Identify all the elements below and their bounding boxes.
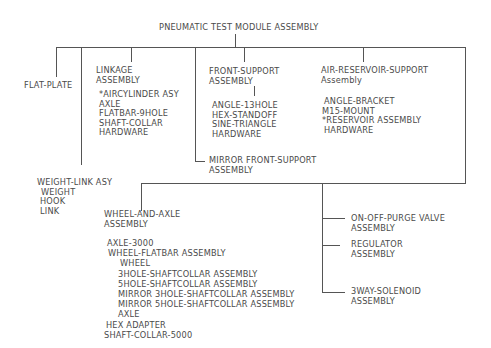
linkage-connector [131, 47, 132, 62]
part-item: 3HOLE-SHAFTCOLLAR ASSEMBLY [104, 269, 294, 279]
regulator-branch [322, 245, 340, 246]
part-item: MIRROR 5HOLE-SHAFTCOLLAR ASSEMBLY [104, 299, 294, 309]
node-regulator: REGULATOR ASSEMBLY [351, 240, 403, 259]
part-item: HARDWARE [99, 128, 179, 138]
front-support-parts-list: ANGLE-13HOLE HEX-STANDOFF SINE-TRIANGLE … [212, 101, 278, 139]
part-item: WHEEL-FLATBAR ASSEMBLY [104, 248, 294, 258]
node-label: Assembly [321, 76, 428, 86]
node-air-reservoir-support: AIR-RESERVOIR-SUPPORT Assembly [321, 66, 428, 85]
part-item: HARDWARE [322, 126, 421, 136]
mirror-front-support-connector [195, 47, 196, 161]
on-off-purge-branch [322, 218, 345, 219]
part-item: SHAFT-COLLAR-5000 [104, 330, 294, 340]
node-on-off-purge-valve: ON-OFF-PURGE VALVE ASSEMBLY [351, 214, 445, 233]
part-item: AXLE [104, 309, 294, 319]
part-item: HARDWARE [212, 130, 278, 140]
part-item: AXLE-3000 [104, 238, 294, 248]
air-reservoir-parts-list: ANGLE-BRACKET M15-MOUNT *RESERVOIR ASSEM… [322, 97, 421, 135]
mirror-front-support-branch [195, 161, 205, 162]
node-label: ASSEMBLY [96, 76, 140, 86]
wheel-axle-connector [141, 183, 142, 211]
wheel-and-axle-parts-list: AXLE-3000 WHEEL-FLATBAR ASSEMBLY WHEEL 3… [104, 238, 294, 340]
title-stem-line [235, 34, 236, 47]
node-label: ASSEMBLY [351, 250, 403, 260]
node-label: ASSEMBLY [351, 297, 421, 307]
part-item: LINK [37, 207, 112, 217]
solenoid-branch [322, 292, 345, 293]
node-3way-solenoid: 3WAY-SOLENOID ASSEMBLY [351, 287, 421, 306]
node-mirror-front-support: MIRROR FRONT-SUPPORT ASSEMBLY [209, 156, 316, 175]
front-support-inner-connector [254, 86, 255, 96]
valve-group-connector [322, 183, 323, 293]
diagram-title: PNEUMATIC TEST MODULE ASSEMBLY [159, 22, 318, 32]
part-item: HEX ADAPTER [104, 320, 294, 330]
node-weight-link: WEIGHT-LINK ASY WEIGHT HOOK LINK [37, 178, 112, 216]
right-drop-line [465, 47, 466, 184]
node-label: ASSEMBLY [209, 166, 316, 176]
node-label: ASSEMBLY [351, 224, 445, 234]
lower-branch-line [141, 183, 466, 184]
linkage-parts-list: *AIRCYLINDER ASY AXLE FLATBAR-9HOLE SHAF… [99, 90, 179, 138]
part-item: WHEEL [104, 258, 294, 268]
part-item: 5HOLE-SHAFTCOLLAR ASSEMBLY [104, 279, 294, 289]
front-support-connector [244, 47, 245, 62]
node-label: ASSEMBLY [104, 220, 180, 230]
top-branch-line [56, 47, 466, 48]
node-wheel-and-axle: WHEEL-AND-AXLE ASSEMBLY [104, 210, 180, 229]
node-flat-plate: FLAT-PLATE [24, 80, 72, 90]
air-reservoir-connector [363, 47, 364, 62]
weight-link-connector [81, 47, 82, 165]
node-front-support: FRONT-SUPPORT ASSEMBLY [209, 67, 279, 86]
flat-plate-connector [56, 47, 57, 77]
part-item: MIRROR 3HOLE-SHAFTCOLLAR ASSEMBLY [104, 289, 294, 299]
node-label: ASSEMBLY [209, 77, 279, 87]
node-linkage: LINKAGE ASSEMBLY [96, 66, 140, 85]
